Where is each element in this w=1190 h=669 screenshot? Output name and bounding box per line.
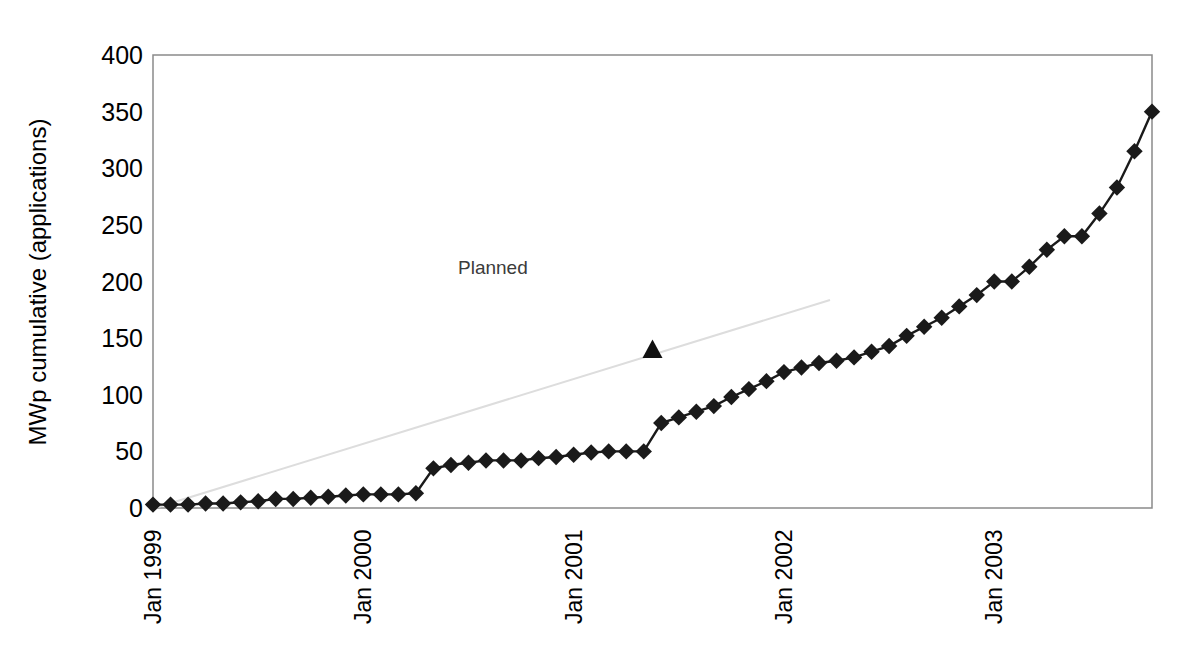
y-axis-tick-labels: 050100150200250300350400 <box>101 41 143 522</box>
y-axis-tick-label: 300 <box>101 154 143 182</box>
chart-figure: Planned 050100150200250300350400 MWp cum… <box>0 0 1190 669</box>
planned-annotation-label: Planned <box>458 257 528 278</box>
y-axis-tick-label: 200 <box>101 268 143 296</box>
x-axis-tick-label: Jan 2002 <box>771 529 797 624</box>
x-axis-tick-label: Jan 2001 <box>561 529 587 624</box>
y-axis-title: MWp cumulative (applications) <box>24 119 51 446</box>
y-axis-tick-label: 250 <box>101 211 143 239</box>
x-axis-tick-label: Jan 2000 <box>350 529 376 624</box>
x-axis-tick-labels: Jan 1999Jan 2000Jan 2001Jan 2002Jan 2003 <box>140 529 1007 624</box>
x-axis-tick-label: Jan 1999 <box>140 529 166 624</box>
y-axis-tick-label: 100 <box>101 381 143 409</box>
x-axis-tick-label: Jan 2003 <box>981 529 1007 624</box>
y-axis-tick-label: 150 <box>101 324 143 352</box>
y-axis-tick-label: 50 <box>115 437 143 465</box>
y-axis-tick-label: 0 <box>129 494 143 522</box>
chart-canvas: Planned 050100150200250300350400 MWp cum… <box>0 0 1190 669</box>
y-axis-tick-label: 350 <box>101 98 143 126</box>
y-axis-tick-label: 400 <box>101 41 143 69</box>
